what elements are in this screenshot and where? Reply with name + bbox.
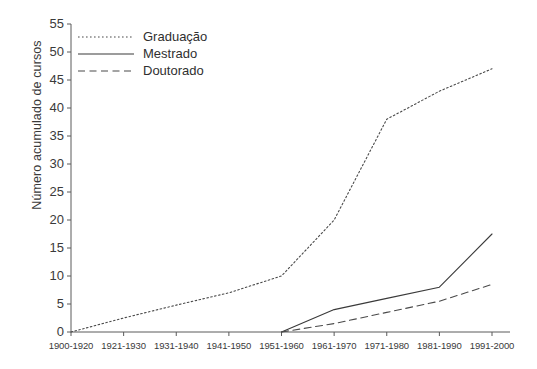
x-axis-tick-label: 1991-2000 bbox=[470, 340, 515, 351]
legend-key-solid-icon bbox=[78, 48, 134, 60]
x-axis-tick-label: 1900-1920 bbox=[49, 340, 94, 351]
legend-label: Doutorado bbox=[143, 64, 204, 77]
x-axis-tick-labels: 1900-19201921-19301931-19401941-19501951… bbox=[0, 338, 537, 358]
x-axis-tick-label: 1961-1970 bbox=[312, 340, 357, 351]
legend-item: Graduação bbox=[78, 28, 207, 45]
x-axis-tick-label: 1971-1980 bbox=[364, 340, 409, 351]
legend-key-dotted-icon bbox=[78, 31, 134, 43]
series-line-doutorado bbox=[282, 284, 493, 332]
legend-key-dashed-icon bbox=[78, 65, 134, 77]
x-axis-tick-label: 1951-1960 bbox=[259, 340, 304, 351]
x-axis-tick-label: 1981-1990 bbox=[417, 340, 462, 351]
legend-label: Graduação bbox=[143, 30, 207, 43]
chart-legend: GraduaçãoMestradoDoutorado bbox=[78, 28, 207, 79]
x-axis-tick-label: 1931-1940 bbox=[154, 340, 199, 351]
series-line-graduação bbox=[71, 69, 492, 332]
series-line-mestrado bbox=[282, 234, 493, 332]
x-axis-tick-label: 1921-1930 bbox=[101, 340, 146, 351]
legend-label: Mestrado bbox=[143, 47, 197, 60]
legend-item: Mestrado bbox=[78, 45, 207, 62]
x-axis-tick-label: 1941-1950 bbox=[207, 340, 252, 351]
legend-item: Doutorado bbox=[78, 62, 207, 79]
accumulated-courses-line-chart: Número acumulado de cursos 0510152025303… bbox=[0, 0, 537, 369]
